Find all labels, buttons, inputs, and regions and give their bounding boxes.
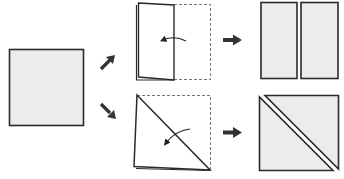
arrow-down-right-icon [101, 104, 116, 119]
result-two-rectangles [261, 3, 338, 79]
start-square [10, 50, 84, 126]
fold-half-step [137, 3, 211, 80]
result-two-triangles [260, 96, 339, 171]
fold-diagonal-step [134, 95, 211, 171]
arrow-up-right-icon [101, 55, 115, 69]
arrow-right-icon [223, 35, 242, 46]
arrow-right-icon [223, 127, 242, 138]
